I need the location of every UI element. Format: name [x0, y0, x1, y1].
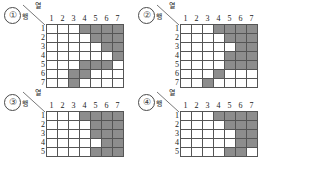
grid-cell-empty[interactable]: [47, 148, 58, 157]
grid-cell-empty[interactable]: [58, 70, 69, 79]
grid-cell-shaded[interactable]: [236, 148, 247, 157]
grid-cell-shaded[interactable]: [69, 70, 80, 79]
grid-cell-empty[interactable]: [214, 148, 225, 157]
grid-cell-empty[interactable]: [192, 112, 203, 121]
grid-cell-empty[interactable]: [80, 121, 91, 130]
grid-cell-shaded[interactable]: [225, 148, 236, 157]
grid-cell-shaded[interactable]: [247, 112, 258, 121]
grid-cell-empty[interactable]: [203, 52, 214, 61]
grid-cell-empty[interactable]: [192, 25, 203, 34]
grid-cell-empty[interactable]: [47, 70, 58, 79]
grid-cell-empty[interactable]: [214, 52, 225, 61]
grid-cell-empty[interactable]: [214, 43, 225, 52]
grid-cell-empty[interactable]: [192, 130, 203, 139]
grid-cell-shaded[interactable]: [225, 121, 236, 130]
grid-cell-shaded[interactable]: [247, 52, 258, 61]
grid-cell-empty[interactable]: [181, 130, 192, 139]
grid-cell-shaded[interactable]: [80, 112, 91, 121]
grid-cell-empty[interactable]: [58, 25, 69, 34]
grid-cell-empty[interactable]: [247, 70, 258, 79]
grid-cell-shaded[interactable]: [91, 112, 102, 121]
grid-cell-empty[interactable]: [203, 70, 214, 79]
grid-cell-empty[interactable]: [69, 139, 80, 148]
grid-cell-empty[interactable]: [58, 130, 69, 139]
grid-cell-empty[interactable]: [47, 34, 58, 43]
grid-3[interactable]: [46, 111, 124, 157]
grid-cell-empty[interactable]: [58, 34, 69, 43]
grid-cell-empty[interactable]: [225, 43, 236, 52]
grid-cell-shaded[interactable]: [113, 139, 124, 148]
grid-cell-empty[interactable]: [214, 61, 225, 70]
grid-cell-shaded[interactable]: [113, 121, 124, 130]
grid-cell-empty[interactable]: [102, 52, 113, 61]
grid-cell-empty[interactable]: [192, 148, 203, 157]
grid-cell-shaded[interactable]: [80, 61, 91, 70]
grid-cell-empty[interactable]: [80, 52, 91, 61]
grid-cell-shaded[interactable]: [113, 148, 124, 157]
grid-cell-empty[interactable]: [58, 43, 69, 52]
grid-cell-empty[interactable]: [69, 112, 80, 121]
grid-cell-empty[interactable]: [91, 139, 102, 148]
grid-cell-empty[interactable]: [47, 43, 58, 52]
grid-cell-empty[interactable]: [225, 130, 236, 139]
grid-cell-empty[interactable]: [181, 112, 192, 121]
grid-cell-shaded[interactable]: [91, 130, 102, 139]
grid-cell-empty[interactable]: [47, 121, 58, 130]
grid-cell-empty[interactable]: [214, 130, 225, 139]
grid-1[interactable]: [46, 24, 124, 88]
grid-cell-shaded[interactable]: [236, 61, 247, 70]
grid-cell-shaded[interactable]: [247, 139, 258, 148]
grid-cell-empty[interactable]: [47, 112, 58, 121]
grid-cell-empty[interactable]: [91, 70, 102, 79]
grid-cell-empty[interactable]: [113, 70, 124, 79]
grid-cell-empty[interactable]: [80, 139, 91, 148]
grid-cell-empty[interactable]: [80, 43, 91, 52]
grid-cell-empty[interactable]: [181, 139, 192, 148]
grid-cell-empty[interactable]: [181, 25, 192, 34]
grid-cell-shaded[interactable]: [102, 139, 113, 148]
grid-cell-shaded[interactable]: [102, 43, 113, 52]
grid-cell-empty[interactable]: [192, 121, 203, 130]
grid-cell-shaded[interactable]: [102, 121, 113, 130]
grid-cell-empty[interactable]: [80, 34, 91, 43]
grid-cell-empty[interactable]: [113, 61, 124, 70]
grid-cell-shaded[interactable]: [247, 121, 258, 130]
grid-cell-empty[interactable]: [192, 61, 203, 70]
grid-cell-empty[interactable]: [69, 52, 80, 61]
grid-cell-shaded[interactable]: [236, 130, 247, 139]
grid-cell-empty[interactable]: [181, 52, 192, 61]
grid-cell-empty[interactable]: [247, 148, 258, 157]
grid-cell-shaded[interactable]: [236, 43, 247, 52]
grid-cell-empty[interactable]: [214, 34, 225, 43]
grid-cell-empty[interactable]: [47, 61, 58, 70]
grid-cell-empty[interactable]: [203, 130, 214, 139]
grid-cell-empty[interactable]: [181, 70, 192, 79]
grid-cell-shaded[interactable]: [113, 52, 124, 61]
grid-cell-empty[interactable]: [69, 25, 80, 34]
grid-cell-empty[interactable]: [181, 148, 192, 157]
grid-cell-empty[interactable]: [47, 25, 58, 34]
grid-cell-empty[interactable]: [203, 148, 214, 157]
grid-cell-shaded[interactable]: [225, 112, 236, 121]
grid-cell-empty[interactable]: [214, 139, 225, 148]
grid-cell-shaded[interactable]: [102, 130, 113, 139]
grid-cell-shaded[interactable]: [80, 70, 91, 79]
grid-cell-shaded[interactable]: [102, 34, 113, 43]
grid-cell-empty[interactable]: [69, 34, 80, 43]
grid-cell-shaded[interactable]: [91, 121, 102, 130]
grid-cell-empty[interactable]: [58, 52, 69, 61]
grid-cell-empty[interactable]: [58, 139, 69, 148]
grid-cell-shaded[interactable]: [113, 43, 124, 52]
grid-cell-empty[interactable]: [192, 34, 203, 43]
grid-cell-shaded[interactable]: [214, 112, 225, 121]
grid-cell-shaded[interactable]: [247, 61, 258, 70]
grid-cell-empty[interactable]: [203, 43, 214, 52]
grid-cell-shaded[interactable]: [236, 52, 247, 61]
grid-cell-empty[interactable]: [69, 121, 80, 130]
grid-cell-empty[interactable]: [203, 121, 214, 130]
grid-cell-empty[interactable]: [69, 130, 80, 139]
grid-cell-empty[interactable]: [47, 139, 58, 148]
grid-cell-empty[interactable]: [47, 52, 58, 61]
grid-cell-shaded[interactable]: [247, 130, 258, 139]
grid-cell-empty[interactable]: [47, 130, 58, 139]
